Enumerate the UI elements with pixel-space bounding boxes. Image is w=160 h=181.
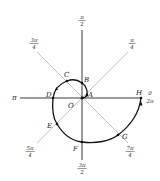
angle-label-5pi4-num: 5π	[26, 145, 33, 151]
label-c: C	[64, 71, 70, 79]
angle-label-3pi4-den: 4	[31, 44, 36, 50]
angle-label-pi2-den: 2	[79, 21, 84, 27]
angle-label-3pi2-num: 3π	[78, 162, 85, 168]
label-h: H	[135, 89, 143, 97]
point-e	[56, 123, 59, 126]
label-g: G	[122, 133, 128, 141]
angle-label-3pi2-den: 2	[79, 169, 84, 175]
angle-label-5pi4-den: 4	[27, 152, 32, 158]
label-origin: O	[68, 102, 74, 110]
polar-spiral-diagram: A B C D E F G H O π 0 2π π 2 3π 2 π 4 3π…	[0, 0, 160, 181]
label-a: A	[87, 91, 93, 99]
point-h	[140, 97, 143, 100]
angle-label-pi: π	[11, 94, 17, 102]
point-d	[52, 97, 55, 100]
label-b: B	[83, 76, 89, 84]
angle-label-pi4-num: π	[129, 37, 134, 43]
angle-label-pi4-den: 4	[129, 44, 134, 50]
angle-label-0: 0	[148, 90, 152, 96]
point-g	[117, 134, 120, 137]
angle-label-2pi: 2π	[145, 98, 153, 104]
label-f: F	[72, 145, 79, 153]
point-b	[81, 82, 84, 85]
angle-label-3pi4-num: 3π	[30, 37, 37, 43]
angle-label-pi2-num: π	[79, 14, 84, 20]
point-origin	[81, 97, 84, 100]
label-d: D	[45, 91, 52, 99]
label-e: E	[46, 122, 52, 130]
angle-label-7pi4-num: 7π	[126, 145, 133, 151]
point-f	[81, 141, 84, 144]
angle-label-7pi4-den: 4	[127, 152, 132, 158]
point-c	[66, 80, 69, 83]
